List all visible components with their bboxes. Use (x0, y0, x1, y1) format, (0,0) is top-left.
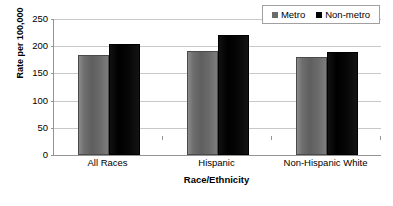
y-axis-tick-label: 150 (8, 68, 48, 78)
legend-entry-metro: Metro (272, 10, 305, 20)
x-axis-category-label: All Races (53, 158, 162, 168)
square-swatch-black-icon (316, 12, 322, 18)
x-axis-tick-mark (380, 136, 381, 140)
bar-chart: Rate per 100,000 Race/Ethnicity MetroNon… (0, 0, 393, 206)
x-axis-tick-mark (162, 136, 163, 140)
x-axis-tick-mark (271, 136, 272, 140)
square-swatch-gray-icon (272, 12, 278, 18)
y-axis-tick-mark (51, 101, 54, 102)
bar-metro-non-hispanic-white (296, 57, 327, 155)
y-axis-tick-label: 0 (8, 150, 48, 160)
y-axis-tick-mark (51, 128, 54, 129)
bar-metro-all-races (78, 55, 109, 155)
x-axis-title: Race/Ethnicity (53, 175, 380, 185)
y-axis-tick-mark (51, 155, 54, 156)
legend-entry-non-metro: Non-metro (316, 10, 370, 20)
bar-non-metro-all-races (109, 44, 140, 155)
y-axis-tick-mark (51, 46, 54, 47)
legend-label: Metro (281, 10, 305, 20)
chart-legend: MetroNon-metro (262, 5, 380, 24)
y-axis-tick-label: 200 (8, 41, 48, 51)
legend-label: Non-metro (325, 10, 370, 20)
plot-area (53, 19, 381, 156)
bar-metro-hispanic (187, 51, 218, 155)
x-axis-category-label: Hispanic (162, 158, 271, 168)
bar-non-metro-non-hispanic-white (327, 52, 358, 155)
y-axis-tick-mark (51, 19, 54, 20)
bar-non-metro-hispanic (218, 35, 249, 155)
y-axis-tick-label: 100 (8, 96, 48, 106)
y-axis-tick-label: 50 (8, 123, 48, 133)
y-axis-tick-label: 250 (8, 14, 48, 24)
x-axis-category-label: Non-Hispanic White (271, 158, 380, 168)
y-axis-tick-mark (51, 73, 54, 74)
